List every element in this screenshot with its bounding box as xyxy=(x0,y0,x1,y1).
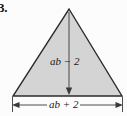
base-label: ab + 2 xyxy=(47,99,80,110)
base-arrowhead-left-icon xyxy=(12,102,20,108)
height-label: ab − 2 xyxy=(50,56,79,67)
base-arrowhead-right-icon xyxy=(116,102,124,108)
triangle-shape xyxy=(13,9,122,96)
geometry-figure: 3. ab − 2 ab + 2 xyxy=(0,0,127,116)
